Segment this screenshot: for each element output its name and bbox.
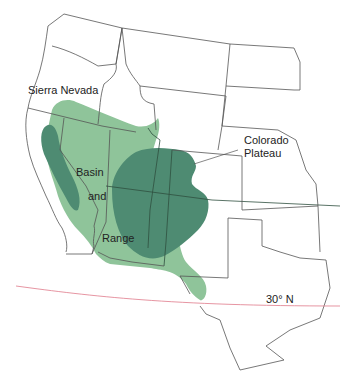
western-us-map: Sierra Nevada Basin and Range Colorado P… (0, 0, 344, 384)
label-basin: Basin (76, 166, 104, 178)
label-plateau: Plateau (244, 147, 281, 159)
label-range: Range (102, 232, 134, 244)
label-sierra-nevada: Sierra Nevada (28, 84, 99, 96)
label-30n: 30° N (266, 293, 294, 305)
label-colorado: Colorado (244, 134, 289, 146)
label-and: and (88, 190, 106, 202)
